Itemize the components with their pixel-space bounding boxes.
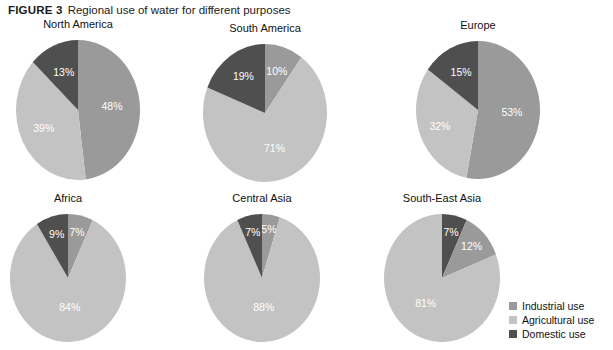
legend-label: Domestic use bbox=[522, 328, 586, 340]
pie-slice-label: 71% bbox=[264, 142, 285, 154]
figure-caption: FIGURE 3Regional use of water for differ… bbox=[8, 3, 291, 17]
pie-slice-label: 48% bbox=[102, 100, 123, 112]
figure-number: FIGURE 3 bbox=[8, 4, 63, 16]
pie-svg: 53%32%15% bbox=[402, 35, 554, 199]
pie-slice-label: 7% bbox=[444, 226, 459, 238]
pie-panel-south-east-asia: South-East Asia7%12%81% bbox=[370, 192, 514, 346]
pie-slice-label: 88% bbox=[253, 301, 274, 313]
pie-svg: 10%71%19% bbox=[189, 38, 341, 202]
pie-panel-africa: Africa7%84%9% bbox=[0, 192, 140, 346]
chart-legend: Industrial useAgricultural useDomestic u… bbox=[509, 300, 607, 342]
pie-svg: 48%39%13% bbox=[2, 34, 154, 200]
pie-slice-label: 15% bbox=[451, 66, 472, 78]
legend-label: Industrial use bbox=[522, 300, 584, 312]
pie-slice-label: 53% bbox=[501, 106, 522, 118]
pie-svg: 5%88%7% bbox=[190, 208, 334, 350]
pie-slice-label: 13% bbox=[53, 66, 74, 78]
pie-slice-label: 84% bbox=[59, 301, 80, 313]
pie-panel-north-america: North America48%39%13% bbox=[2, 18, 154, 184]
pie-title: Africa bbox=[0, 192, 140, 205]
pie-title: Central Asia bbox=[190, 192, 334, 205]
legend-swatch-icon bbox=[509, 302, 517, 310]
pie-slice-label: 7% bbox=[70, 226, 85, 238]
legend-item-agricultural[interactable]: Agricultural use bbox=[509, 314, 607, 326]
pie-slice-label: 5% bbox=[261, 223, 276, 235]
pie-slice-label: 9% bbox=[49, 228, 64, 240]
legend-item-industrial[interactable]: Industrial use bbox=[509, 300, 607, 312]
pie-title: South America bbox=[189, 22, 341, 35]
pie-slice-label: 39% bbox=[33, 122, 54, 134]
pie-slice-label: 12% bbox=[461, 240, 482, 252]
pie-title: South-East Asia bbox=[370, 192, 514, 205]
figure-title: Regional use of water for different purp… bbox=[68, 4, 291, 16]
pie-title: North America bbox=[2, 18, 154, 31]
pie-panel-south-america: South America10%71%19% bbox=[189, 22, 341, 186]
pie-title: Europe bbox=[402, 19, 554, 32]
pie-slice-label: 19% bbox=[233, 70, 254, 82]
legend-item-domestic[interactable]: Domestic use bbox=[509, 328, 607, 340]
legend-swatch-icon bbox=[509, 330, 517, 338]
legend-swatch-icon bbox=[509, 316, 517, 324]
pie-panel-europe: Europe53%32%15% bbox=[402, 19, 554, 183]
pie-slice-label: 32% bbox=[429, 120, 450, 132]
pie-slice-label: 10% bbox=[266, 65, 287, 77]
pie-panel-central-asia: Central Asia5%88%7% bbox=[190, 192, 334, 346]
pie-svg: 7%12%81% bbox=[370, 208, 514, 350]
pie-slice-label: 7% bbox=[245, 226, 260, 238]
pie-svg: 7%84%9% bbox=[0, 208, 140, 350]
legend-label: Agricultural use bbox=[522, 314, 594, 326]
pie-slice-label: 81% bbox=[415, 297, 436, 309]
